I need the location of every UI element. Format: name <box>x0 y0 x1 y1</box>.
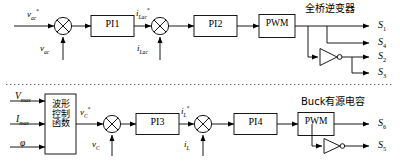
block-pi3[interactable]: PI3 <box>136 117 179 127</box>
output-s5: S5 <box>378 140 386 152</box>
signal-vc-ref: vC* <box>80 107 91 119</box>
waveform-line-3: 函数 <box>45 119 76 129</box>
signal-iLac-ref: iLac* <box>136 8 150 20</box>
block-waveform-control-function[interactable]: 波形 控制 函数 <box>45 100 76 129</box>
output-s2: S2 <box>378 51 386 63</box>
input-vmax: Vmax <box>15 92 31 104</box>
block-pwm-inverter[interactable]: PWM <box>259 19 295 29</box>
signal-iL-feedback: iL <box>184 140 190 151</box>
signal-iL-ref: iL* <box>181 106 189 118</box>
input-phi: φ <box>20 139 25 149</box>
block-pwm-buck[interactable]: PWM <box>298 117 334 127</box>
output-s6: S6 <box>378 118 386 130</box>
output-s1: S1 <box>378 20 386 32</box>
signal-vc-feedback: vC <box>92 140 100 151</box>
block-pi4[interactable]: PI4 <box>234 117 277 127</box>
signal-vac-feedback: vac <box>40 44 49 55</box>
signal-vac-ref: vac* <box>27 9 39 21</box>
control-block-diagram: vac* vac PI1 iLac* iLac PI2 PWM 全桥逆变器 S1… <box>0 0 400 161</box>
output-s3: S3 <box>378 67 386 79</box>
signal-iLac-feedback: iLac <box>137 44 148 55</box>
section-title-buck-active-capacitor: Buck有源电容 <box>301 97 366 107</box>
input-imax: Imax <box>16 115 29 127</box>
section-title-full-bridge-inverter: 全桥逆变器 <box>305 4 355 14</box>
block-pi2[interactable]: PI2 <box>194 19 237 29</box>
block-pi1[interactable]: PI1 <box>91 19 134 29</box>
output-s4: S4 <box>378 37 386 49</box>
